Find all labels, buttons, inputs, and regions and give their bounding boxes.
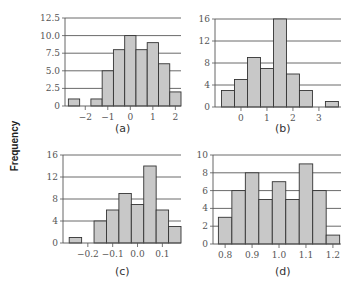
histogram-bar <box>272 182 285 244</box>
histogram-bar <box>232 191 245 244</box>
histogram-bar <box>313 191 326 244</box>
histogram-bar <box>326 235 339 244</box>
y-tick-label: 0 <box>202 239 208 249</box>
x-tick-label: 0.8 <box>218 250 233 260</box>
y-tick-label: 4 <box>202 203 208 213</box>
histogram-bar <box>299 164 312 244</box>
x-tick-label: 1.1 <box>299 250 313 260</box>
y-tick-label: 2 <box>202 221 208 231</box>
y-tick-label: 10 <box>197 150 209 160</box>
histogram-bar <box>286 200 299 245</box>
y-tick-label: 8 <box>202 168 208 178</box>
x-tick-label: 1.0 <box>272 250 287 260</box>
x-tick-label: 0.9 <box>245 250 260 260</box>
y-tick-label: 6 <box>202 186 208 196</box>
histogram-bar <box>218 217 231 244</box>
histogram-bar <box>259 200 272 245</box>
histogram-panel-d: 02468100.80.91.01.11.2 <box>0 0 354 293</box>
histogram-bar <box>245 173 258 244</box>
x-tick-label: 1.2 <box>326 250 340 260</box>
panel-caption-d: (d) <box>275 265 291 278</box>
